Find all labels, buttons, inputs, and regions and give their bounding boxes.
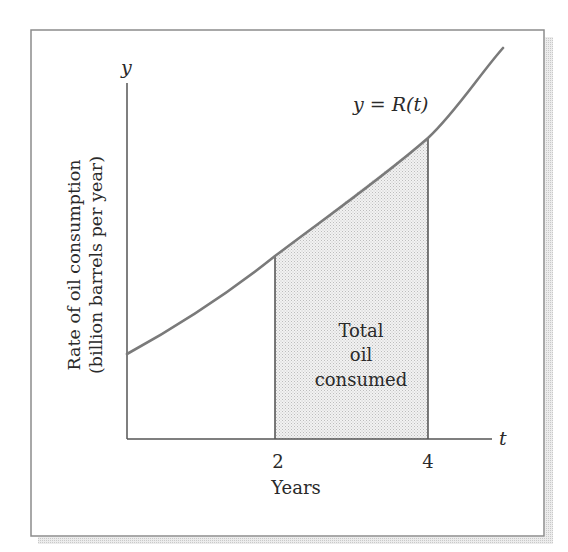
- shaded-label-line1: Total: [338, 320, 383, 341]
- shaded-label-line2: oil: [350, 344, 373, 365]
- y-axis-title-line1: Rate of oil consumption: [64, 160, 84, 371]
- x-tick-4: 4: [422, 451, 433, 472]
- x-axis-title: Years: [270, 477, 321, 498]
- y-axis-title-line2: (billion barrels per year): [86, 156, 106, 374]
- shaded-label-line3: consumed: [315, 369, 408, 390]
- curve-label: y = R(t): [352, 93, 429, 115]
- y-axis-symbol: y: [120, 56, 132, 78]
- x-axis-symbol: t: [499, 427, 507, 449]
- x-tick-2: 2: [272, 451, 283, 472]
- figure-canvas: y t y = R(t) 2 4 Years Rate of oil consu…: [0, 0, 568, 552]
